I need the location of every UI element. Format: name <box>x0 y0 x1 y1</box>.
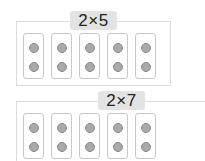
dot-icon <box>85 123 95 133</box>
dot-icon <box>141 62 151 72</box>
dot-icon <box>85 43 95 53</box>
dot-card <box>107 33 128 79</box>
dot-icon <box>113 123 123 133</box>
dot-icon <box>113 62 123 72</box>
dot-icon <box>141 123 151 133</box>
group-label-2x5: 2×5 <box>70 11 117 30</box>
dot-icon <box>85 142 95 152</box>
dot-card <box>23 113 44 159</box>
dot-icon <box>29 62 39 72</box>
dot-card <box>135 113 156 159</box>
dot-icon <box>57 43 67 53</box>
dot-icon <box>57 62 67 72</box>
dot-icon <box>29 123 39 133</box>
dot-icon <box>57 142 67 152</box>
dot-card <box>23 33 44 79</box>
dot-card <box>107 113 128 159</box>
dot-icon <box>85 62 95 72</box>
dot-icon <box>29 43 39 53</box>
dot-card <box>51 33 72 79</box>
dot-icon <box>29 142 39 152</box>
dot-card <box>135 33 156 79</box>
dot-card <box>51 113 72 159</box>
group-label-2x7: 2×7 <box>98 91 145 110</box>
dot-card <box>79 33 100 79</box>
card-row-2x7 <box>23 113 156 159</box>
dot-card <box>79 113 100 159</box>
card-row-2x5 <box>23 33 156 79</box>
dot-icon <box>113 142 123 152</box>
dot-icon <box>113 43 123 53</box>
dot-icon <box>57 123 67 133</box>
dot-icon <box>141 142 151 152</box>
dot-icon <box>141 43 151 53</box>
